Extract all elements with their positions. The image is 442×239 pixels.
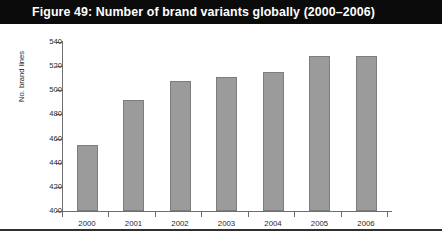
y-tick-label: 400 [10,207,62,215]
y-axis-line [62,41,63,212]
bar-2002 [170,81,191,211]
bar-2003 [216,77,237,211]
y-tick-label-wrap: 540 [0,38,62,39]
y-tick-label-wrap: 440 [0,159,62,160]
y-tick-label: 540 [10,38,62,46]
bar-2000 [77,145,98,211]
y-tick-label: 460 [10,135,62,143]
y-tick-label-wrap: 500 [0,86,62,87]
x-tick-mark [387,212,388,217]
x-tick-mark [294,212,295,217]
y-tick-label: 480 [10,110,62,118]
x-tick-mark [341,212,342,217]
x-tick-mark [201,212,202,217]
bar-2005 [309,56,330,211]
x-axis-line [62,211,392,212]
x-tick-mark [108,212,109,217]
y-axis-title: No. brand lines [18,51,26,102]
y-tick-label: 520 [10,62,62,70]
y-tick-label: 440 [10,159,62,167]
bottom-rule [0,229,442,231]
x-tick-label-2006: 2006 [336,220,396,228]
y-tick-label-wrap: 420 [0,183,62,184]
bar-2001 [123,100,144,211]
figure-title: Figure 49: Number of brand variants glob… [0,5,375,19]
bar-2004 [263,72,284,211]
x-tick-mark [155,212,156,217]
figure-area: No. brand lines 540520500480460440420400… [0,24,442,239]
y-tick-label-wrap: 460 [0,135,62,136]
y-tick-label-wrap: 480 [0,110,62,111]
y-tick-label: 500 [10,86,62,94]
figure-title-banner: Figure 49: Number of brand variants glob… [0,0,442,24]
bar-2006 [356,56,377,211]
y-tick-label-wrap: 400 [0,207,62,208]
x-tick-mark [62,212,63,217]
bar-chart-plot: No. brand lines 540520500480460440420400… [0,24,442,239]
y-tick-label-wrap: 520 [0,62,62,63]
x-tick-mark [248,212,249,217]
y-tick-label: 420 [10,183,62,191]
